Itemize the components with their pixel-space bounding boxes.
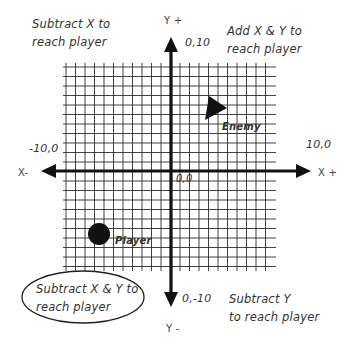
note-bottom-left-line-1: Subtract X & Y to (36, 280, 138, 298)
note-bottom-left: Subtract X & Y to reach player (36, 280, 138, 316)
note-bottom-right: Subtract Y to reach player (229, 290, 319, 326)
note-bottom-right-line-2: to reach player (229, 308, 319, 326)
x-negative-arrow-icon (41, 164, 56, 178)
note-top-right: Add X & Y to reach player (227, 22, 302, 58)
note-top-left-line-1: Subtract X to (32, 15, 110, 33)
coordinate-diagram: Y + Y - X- X + 0,0 0,10 0,-10 -10,0 10,0… (0, 0, 350, 350)
note-top-right-line-1: Add X & Y to (227, 22, 302, 40)
y-negative-label: Y - (166, 320, 180, 337)
note-top-left: Subtract X to reach player (32, 15, 110, 51)
y-positive-arrow-icon (164, 37, 178, 52)
note-bottom-left-line-2: reach player (36, 298, 138, 316)
origin-label: 0,0 (176, 170, 193, 187)
note-bottom-right-line-1: Subtract Y (229, 290, 319, 308)
x-positive-arrow-icon (296, 164, 311, 178)
bottom-coordinate-label: 0,-10 (182, 290, 211, 307)
right-coordinate-label: 10,0 (306, 136, 331, 153)
note-top-right-line-2: reach player (227, 40, 302, 58)
y-negative-arrow-icon (164, 292, 178, 307)
y-positive-label: Y + (164, 12, 182, 29)
note-top-left-line-2: reach player (32, 33, 110, 51)
x-positive-label: X + (318, 164, 337, 181)
player-label: Player (115, 232, 152, 249)
enemy-label: Enemy (222, 118, 261, 135)
player-circle-icon (88, 223, 110, 245)
top-coordinate-label: 0,10 (185, 34, 210, 51)
left-coordinate-label: -10,0 (29, 140, 58, 157)
x-negative-label: X- (18, 164, 28, 181)
